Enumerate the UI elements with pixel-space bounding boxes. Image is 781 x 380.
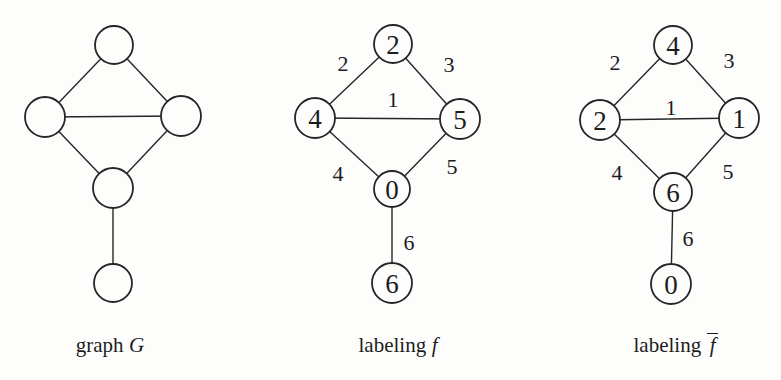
caption-graph-g: graphG xyxy=(30,332,190,358)
caption-labeling-f-bar: labelingf xyxy=(596,332,756,358)
graph-edge xyxy=(315,118,460,119)
labeling-f-bar: 23145642160 xyxy=(580,26,759,304)
node-label: 2 xyxy=(386,30,400,60)
caption-labeling-f: labelingf xyxy=(318,332,478,358)
edge-label: 4 xyxy=(612,160,623,185)
node-label: 6 xyxy=(385,269,399,299)
edge-label: 1 xyxy=(388,87,399,112)
edge-label: 5 xyxy=(447,154,458,179)
edge-label: 2 xyxy=(610,50,621,75)
node-label: 5 xyxy=(453,105,467,135)
labeling-f: 23145624506 xyxy=(295,25,480,303)
node-label: 2 xyxy=(593,106,607,136)
graph-node xyxy=(161,96,201,136)
node-label: 1 xyxy=(732,104,746,134)
edge-label: 6 xyxy=(683,226,694,251)
node-label: 0 xyxy=(385,175,399,205)
edge-label: 4 xyxy=(333,161,344,186)
edge-label: 3 xyxy=(444,52,455,77)
edge-label: 5 xyxy=(723,159,734,184)
caption-symbol: f xyxy=(432,333,438,357)
graph-node xyxy=(25,97,65,137)
node-label: 6 xyxy=(666,178,680,208)
node-label: 0 xyxy=(664,270,678,300)
graph-node xyxy=(94,264,132,302)
graph-node xyxy=(93,168,133,208)
caption-symbol: f xyxy=(707,333,719,356)
caption-symbol: G xyxy=(129,333,144,357)
graph-node xyxy=(95,26,133,64)
edge-label: 3 xyxy=(724,48,735,73)
edge-label: 1 xyxy=(666,95,677,120)
graph-g xyxy=(25,26,201,302)
caption-prefix: labeling xyxy=(359,333,427,357)
caption-prefix: graph xyxy=(76,333,124,357)
diagram-canvas: 2314562450623145642160 xyxy=(0,0,781,380)
node-label: 4 xyxy=(666,31,680,61)
caption-prefix: labeling xyxy=(634,333,702,357)
node-label: 4 xyxy=(308,104,322,134)
edge-label: 2 xyxy=(338,51,349,76)
edge-label: 6 xyxy=(404,230,415,255)
graph-labeling-figure: 2314562450623145642160 graphG labelingf … xyxy=(0,0,781,380)
